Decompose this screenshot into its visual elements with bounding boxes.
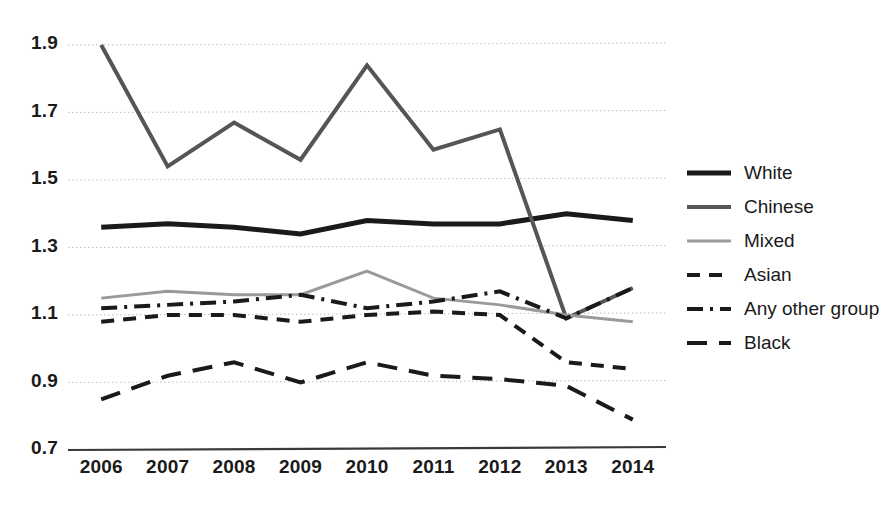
legend-label: Any other group [744, 298, 879, 320]
x-axis-line [68, 447, 666, 450]
legend-label: Mixed [744, 230, 795, 252]
legend-swatch-icon [686, 268, 732, 282]
x-axis-tick-label: 2010 [332, 456, 402, 478]
legend-item-black[interactable]: Black [686, 326, 892, 360]
series-line-chinese [101, 45, 633, 318]
legend-swatch-icon [686, 302, 732, 316]
chart-legend: WhiteChineseMixedAsianAny other groupBla… [686, 156, 892, 360]
legend-item-mixed[interactable]: Mixed [686, 224, 892, 258]
y-axis-tick-label: 1.9 [6, 32, 58, 54]
legend-label: Asian [744, 264, 792, 286]
legend-swatch-icon [686, 336, 732, 350]
gridline [68, 246, 666, 248]
x-axis-tick-label: 2011 [398, 456, 468, 478]
x-axis-tick-label: 2008 [199, 456, 269, 478]
y-axis-tick-label: 0.7 [6, 437, 58, 459]
legend-label: Black [744, 332, 790, 354]
x-axis-tick-label: 2007 [133, 456, 203, 478]
y-axis-tick-label: 1.1 [6, 302, 58, 324]
y-axis-tick-label: 1.5 [6, 167, 58, 189]
series-line-asian [101, 312, 633, 369]
legend-label: Chinese [744, 196, 814, 218]
series-line-white [101, 214, 633, 234]
legend-label: White [744, 162, 793, 184]
legend-item-white[interactable]: White [686, 156, 892, 190]
line-chart: 1.91.71.51.31.10.90.7 200620072008200920… [0, 0, 896, 511]
x-axis-tick-label: 2006 [66, 456, 136, 478]
x-axis-tick-label: 2012 [465, 456, 535, 478]
legend-item-asian[interactable]: Asian [686, 258, 892, 292]
gridline [68, 111, 666, 113]
legend-item-any-other-group[interactable]: Any other group [686, 292, 892, 326]
legend-swatch-icon [686, 166, 732, 180]
legend-swatch-icon [686, 200, 732, 214]
legend-swatch-icon [686, 234, 732, 248]
gridline [68, 381, 666, 383]
x-axis-tick-label: 2009 [266, 456, 336, 478]
gridline [68, 178, 666, 180]
y-axis-tick-label: 1.3 [6, 235, 58, 257]
x-axis-tick-label: 2013 [531, 456, 601, 478]
series-line-black [101, 362, 633, 419]
gridline [68, 43, 666, 45]
series-lines [101, 45, 633, 420]
legend-item-chinese[interactable]: Chinese [686, 190, 892, 224]
y-axis-tick-label: 0.9 [6, 370, 58, 392]
x-axis-tick-label: 2014 [598, 456, 668, 478]
y-axis-tick-label: 1.7 [6, 100, 58, 122]
